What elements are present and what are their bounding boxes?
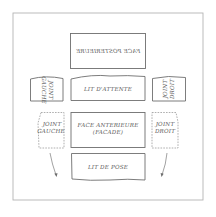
lit-attente: LIT D'ATTENTE	[71, 75, 145, 100]
joint-droit: JOINT DROIT	[152, 113, 178, 149]
joint-gauche-top-line1: JOINT	[47, 80, 54, 101]
joint-droit-line1: JOINT	[155, 121, 176, 128]
face-anterieure-line2: (FACADE)	[93, 129, 123, 135]
stone-faces-diagram: FACE POSTERIEURE JOINT GAUCHE LIT D'ATTE…	[0, 0, 216, 217]
face-posterieure: FACE POSTERIEURE	[71, 34, 146, 69]
face-posterieure-label: FACE POSTERIEURE	[76, 48, 141, 54]
lit-attente-label: LIT D'ATTENTE	[83, 86, 132, 92]
joint-droit-line2: DROIT	[154, 128, 176, 134]
lit-de-pose-label: LIT DE POSE	[87, 164, 128, 170]
joint-gauche: JOINT GAUCHE	[37, 113, 65, 149]
joint-gauche-top: JOINT GAUCHE	[31, 76, 64, 104]
face-anterieure-line1: FACE ANTERIEURE	[77, 122, 139, 128]
lit-de-pose: LIT DE POSE	[72, 154, 146, 181]
joint-droit-top: JOINT DROIT	[153, 76, 186, 101]
joint-droit-top-line2: DROIT	[169, 78, 175, 100]
face-anterieure: FACE ANTERIEURE (FACADE)	[71, 113, 145, 148]
joint-droit-top-line1: JOINT	[162, 79, 169, 100]
joint-gauche-line1: JOINT	[42, 121, 63, 128]
joint-gauche-top-line2: GAUCHE	[41, 76, 47, 104]
joint-gauche-line2: GAUCHE	[37, 128, 65, 134]
